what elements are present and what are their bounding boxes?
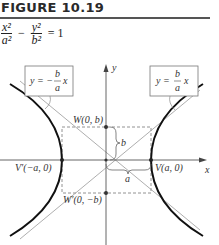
y-axis-arrow-icon — [104, 64, 109, 72]
asymptote-negative-rhs: x — [62, 75, 68, 86]
asymptote-negative-lhs: y = − — [29, 75, 53, 86]
vertex-left-point — [60, 158, 64, 162]
label-covertex-bottom: W′(0, −b) — [63, 194, 103, 206]
asymptote-negative — [20, 81, 200, 230]
asymptote-positive-num: b — [175, 68, 180, 79]
covertex-bottom-point — [104, 191, 108, 195]
x-axis-arrow-icon — [199, 158, 207, 163]
covertex-top-point — [104, 125, 108, 129]
hyperbola-diagram: b a W(0, b) W′(0, −b) V′(−a, 0) V(a, 0) … — [0, 0, 219, 245]
brace-b — [110, 127, 120, 160]
x-axis-label: x — [204, 164, 210, 175]
asymptote-positive-den: a — [175, 82, 180, 93]
brace-b-label: b — [121, 137, 126, 148]
asymptote-negative-num: b — [55, 68, 60, 79]
label-covertex-top: W(0, b) — [73, 114, 104, 126]
y-axis-label: y — [111, 62, 117, 73]
asymptote-positive-rhs: x — [183, 75, 189, 86]
label-vertex-right: V(a, 0) — [155, 162, 183, 174]
vertex-right-point — [149, 158, 153, 162]
origin-point — [104, 158, 107, 161]
brace-a-label: a — [125, 173, 130, 184]
asymptote-negative-den: a — [55, 82, 60, 93]
asymptote-positive-lhs: y = — [155, 75, 170, 86]
label-vertex-left: V′(−a, 0) — [15, 162, 52, 174]
